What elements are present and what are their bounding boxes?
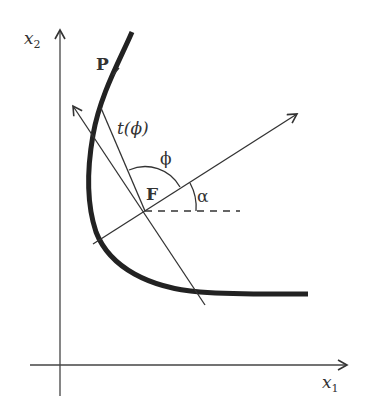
phi-label: ϕ [160,150,172,167]
point-f-label: F [146,186,158,203]
diagram-svg [0,0,368,411]
alpha-arc [190,183,196,211]
diagram-canvas: x2 x1 P F t(ϕ) ϕ α [0,0,368,411]
x1-axis-label: x1 [322,374,339,394]
alpha-label: α [197,188,208,205]
x2-axis-label: x2 [24,30,41,50]
curve [88,32,308,294]
point-p-label: P [96,56,109,73]
t-phi-label: t(ϕ) [117,120,149,137]
